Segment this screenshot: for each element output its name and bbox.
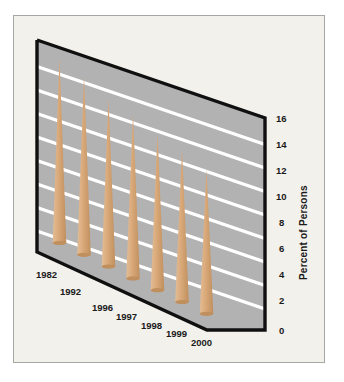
ytick-label-6: 6 xyxy=(279,243,284,254)
ytick-label-8: 8 xyxy=(279,217,284,228)
xtick-label-1998: 1998 xyxy=(141,320,162,331)
xtick-label-1996: 1996 xyxy=(92,302,113,313)
y-axis-title: Percent of Persons xyxy=(298,185,309,280)
chart-figure: 16 14 12 10 8 6 4 2 0 Percent of Persons… xyxy=(0,0,344,382)
ytick-label-16: 16 xyxy=(276,113,287,124)
chart-canvas: 16 14 12 10 8 6 4 2 0 Percent of Persons… xyxy=(0,0,344,382)
ytick-label-10: 10 xyxy=(276,191,287,202)
xtick-label-1982: 1982 xyxy=(36,269,57,280)
xtick-label-1999: 1999 xyxy=(166,328,187,339)
ytick-label-4: 4 xyxy=(279,269,285,280)
xtick-label-1997: 1997 xyxy=(116,311,137,322)
ytick-label-0: 0 xyxy=(279,325,284,336)
ytick-label-14: 14 xyxy=(276,139,287,150)
ytick-label-2: 2 xyxy=(279,295,284,306)
ytick-label-12: 12 xyxy=(276,165,287,176)
xtick-label-1992: 1992 xyxy=(60,286,81,297)
y-axis-ticks: 16 14 12 10 8 6 4 2 0 xyxy=(276,113,287,336)
xtick-label-2000: 2000 xyxy=(191,337,212,348)
